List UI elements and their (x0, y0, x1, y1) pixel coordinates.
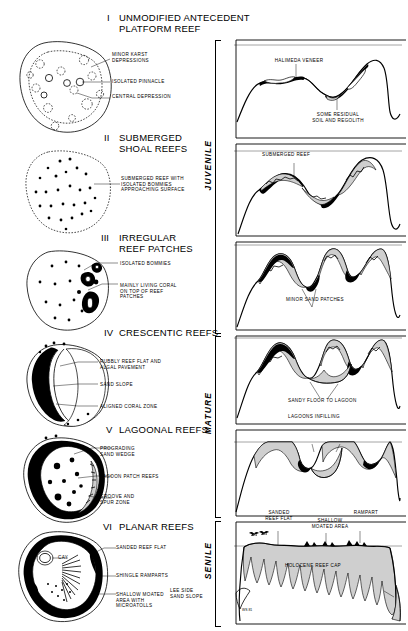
plan-label-mainly-living-coral: MAINLY LIVING CORAL ON TOP OF REEF PATCH… (120, 283, 177, 300)
plan-view-stage-2 (20, 148, 124, 236)
maturity-label-mature: MATURE (203, 392, 213, 434)
stage-numeral-1: I (107, 12, 110, 23)
maturity-label-juvenile: JUVENILE (203, 140, 213, 190)
stage-title-2: SUBMERGED SHOAL REEFS (119, 132, 187, 154)
plan-view-stage-6 (12, 528, 120, 624)
plan-label-shingle-ramparts: SHINGLE RAMPARTS (116, 573, 168, 579)
reef-evolution-figure: I UNMODIFIED ANTECEDENT PLATFORM REEF MI… (0, 0, 408, 631)
bracket-mature (215, 336, 221, 518)
stage-numeral-3: III (101, 232, 109, 243)
plan-label-central-depression: CENTRAL DEPRESSION (112, 94, 171, 100)
stage-title-4: CRESCENTIC REEFS (119, 327, 218, 338)
stage-title-6: PLANAR REEFS (119, 521, 194, 532)
plan-label-isolated-pinnacle: ISOLATED PINNACLE (112, 79, 165, 85)
plan-label-groove-spur-zone: GROOVE AND SPUR ZONE (100, 494, 134, 505)
plan-label-sanded-reef-flat: SANDED REEF FLAT (116, 545, 166, 551)
plan-label-isolated-bommies: ISOLATED BOMMIES (120, 261, 171, 267)
bracket-juvenile (215, 40, 221, 334)
plan-label-minor-karst-depressions: MINOR KARST DEPRESSIONS (112, 52, 149, 63)
plan-label-aligned-coral-zone: ALIGNED CORAL ZONE (100, 404, 157, 410)
plan-label-shallow-moated-microatolls: SHALLOW MOATED AREA WITH MICROATOLLS (116, 592, 164, 609)
plan-label-lagoon-patch-reefs: LAGOON PATCH REEFS (100, 474, 159, 480)
bracket-senile (215, 521, 221, 627)
plan-view-stage-1 (14, 38, 122, 138)
stage-numeral-2: II (104, 132, 109, 143)
plan-view-stage-3 (22, 248, 122, 334)
plan-label-cay: CAY (58, 555, 68, 561)
stage-title-1: UNMODIFIED ANTECEDENT PLATFORM REEF (119, 12, 250, 34)
stage-numeral-4: IV (104, 327, 113, 338)
maturity-label-senile: SENILE (203, 542, 213, 579)
plan-label-rubbly-reef-flat: RUBBLY REEF FLAT AND ALGAL PAVEMENT (100, 359, 161, 370)
stage-title-5: LAGOONAL REEFS (119, 424, 208, 435)
stage-title-3: IRREGULAR REEF PATCHES (119, 232, 193, 254)
plan-label-submerged-reef-bommies: SUBMERGED REEF WITH ISOLATED BOMMIES APP… (121, 176, 185, 193)
plan-label-sand-slope: SAND SLOPE (100, 382, 133, 388)
section-label-lee-side-sand-slope: LEE SIDE SAND SLOPE (170, 588, 203, 599)
section-panel-frames (228, 38, 408, 628)
plan-label-prograding-sand-wedge: PROGRADING SAND WEDGE (100, 446, 135, 457)
